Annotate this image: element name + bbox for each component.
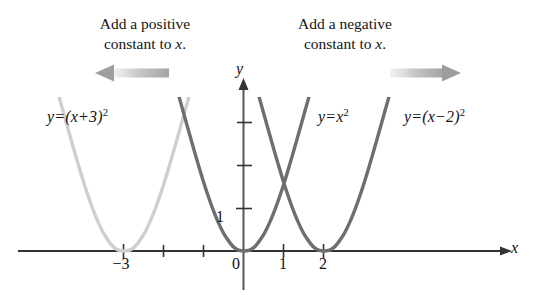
caption-left-period: . [182, 35, 186, 52]
eq-right-operator: − [435, 108, 446, 125]
graph-figure: Add a positive constant to x. Add a nega… [0, 0, 546, 295]
eq-left-variable: x [71, 108, 78, 125]
x-tick-label-1: 1 [275, 255, 291, 273]
eq-left-exponent: 2 [103, 107, 108, 118]
eq-left-equals: = [54, 108, 65, 125]
arrow-right-icon [390, 65, 461, 82]
eq-right-variable: x [428, 108, 435, 125]
caption-add-negative-constant: Add a negative constant to x. [252, 14, 438, 55]
eq-left-constant: 3 [89, 108, 97, 125]
eq-right-equals: = [411, 108, 422, 125]
equation-label-right: y=(x−2)2 [404, 108, 465, 126]
caption-left-line2-text: constant to [104, 35, 175, 52]
equation-label-middle: y=x2 [318, 108, 349, 126]
equation-label-left: y=(x+3)2 [47, 108, 108, 126]
y-axis-label: y [236, 60, 243, 78]
eq-left-operator: + [78, 108, 89, 125]
caption-add-positive-constant: Add a positive constant to x. [52, 14, 238, 55]
caption-right-line2: constant to x. [252, 34, 438, 54]
x-tick-label-2: 2 [315, 255, 331, 273]
y-tick-label-1: 1 [212, 208, 228, 226]
eq-mid-variable: x [336, 108, 343, 125]
x-tick-label-neg3: −3 [104, 255, 138, 273]
eq-mid-exponent: 2 [344, 107, 349, 118]
arrow-left-icon [95, 65, 169, 82]
caption-left-line1: Add a positive [52, 14, 238, 34]
caption-right-period: . [382, 35, 386, 52]
caption-right-line2-text: constant to [304, 35, 375, 52]
eq-right-constant: 2 [446, 108, 454, 125]
x-axis-label: x [511, 239, 518, 257]
caption-left-line2: constant to x. [52, 34, 238, 54]
eq-right-exponent: 2 [460, 107, 465, 118]
caption-right-line1: Add a negative [252, 14, 438, 34]
origin-label: 0 [228, 255, 244, 273]
eq-mid-equals: = [325, 108, 336, 125]
